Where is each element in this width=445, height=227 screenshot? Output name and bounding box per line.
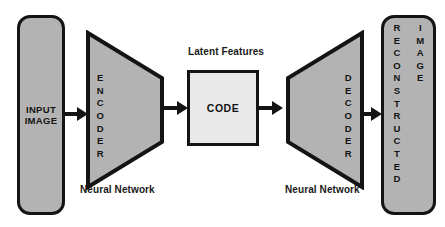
input-image-word-image: IMAGE — [25, 115, 58, 126]
arrow-decoder-to-output — [361, 106, 383, 122]
encoder-label-letters: ENCODER — [93, 72, 107, 161]
decoder-label: DECODER — [341, 50, 355, 184]
input-image-word-input: INPUT — [26, 104, 56, 115]
decoder-label-letters: DECODER — [341, 72, 355, 161]
code-block: CODE — [187, 70, 259, 146]
reconstructed-image-block: RECONSTRUCTED IMAGE — [381, 15, 436, 215]
decoder-label-text: DECODER — [342, 72, 353, 161]
reconstructed-image-word-text: IMAGE — [415, 22, 426, 85]
decoder-neural-network-caption: Neural Network — [285, 184, 360, 195]
reconstructed-word-text: RECONSTRUCTED — [391, 22, 402, 186]
autoencoder-diagram: INPUT IMAGE ENCODER Neural Network Laten… — [0, 0, 445, 227]
encoder-neural-network-caption: Neural Network — [80, 184, 155, 195]
reconstructed-image-label: RECONSTRUCTED IMAGE — [384, 18, 433, 212]
encoder-label: ENCODER — [93, 50, 107, 184]
input-image-label: INPUT IMAGE — [25, 104, 58, 126]
code-label: CODE — [207, 102, 239, 114]
arrow-encoder-to-code — [163, 100, 189, 116]
input-image-block: INPUT IMAGE — [17, 15, 65, 215]
reconstructed-word-column: RECONSTRUCTED — [391, 14, 402, 216]
reconstructed-image-word-column: IMAGE — [415, 14, 426, 216]
encoder-label-text: ENCODER — [94, 72, 105, 161]
latent-features-caption: Latent Features — [188, 46, 264, 57]
